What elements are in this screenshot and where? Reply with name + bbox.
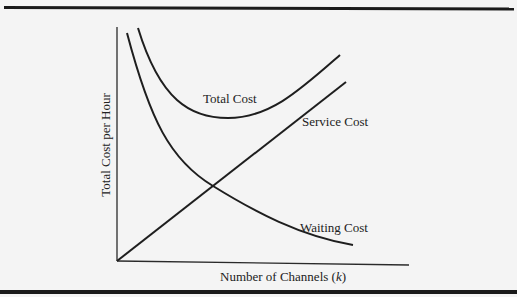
cost-chart (0, 0, 517, 297)
service-cost-label: Service Cost (302, 115, 368, 128)
total-cost-label: Total Cost (203, 92, 257, 105)
x-axis-label: Number of Channels (k) (220, 270, 346, 283)
x-axis (117, 261, 409, 265)
waiting-cost-label: Waiting Cost (300, 221, 368, 234)
y-axis-label: Total Cost per Hour (99, 93, 112, 196)
x-axis-label-close: ) (342, 269, 346, 284)
x-axis-label-text: Number of Channels ( (220, 269, 336, 284)
waiting-cost-curve (127, 33, 353, 245)
bottom-rule (0, 290, 517, 294)
